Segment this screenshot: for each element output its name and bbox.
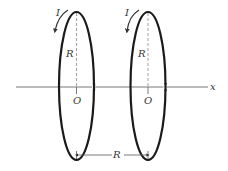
separation-label: R bbox=[113, 150, 121, 160]
right-loop bbox=[127, 10, 166, 160]
right-center-label: O bbox=[144, 96, 152, 106]
left-center-label: O bbox=[73, 96, 81, 106]
right-radius-label: R bbox=[138, 49, 146, 59]
helmholtz-coil-diagram bbox=[0, 0, 228, 171]
x-axis-label: x bbox=[210, 82, 216, 92]
right-current-label: I bbox=[125, 8, 129, 18]
left-radius-label: R bbox=[66, 49, 74, 59]
left-current-label: I bbox=[56, 8, 60, 18]
left-loop bbox=[55, 10, 94, 160]
